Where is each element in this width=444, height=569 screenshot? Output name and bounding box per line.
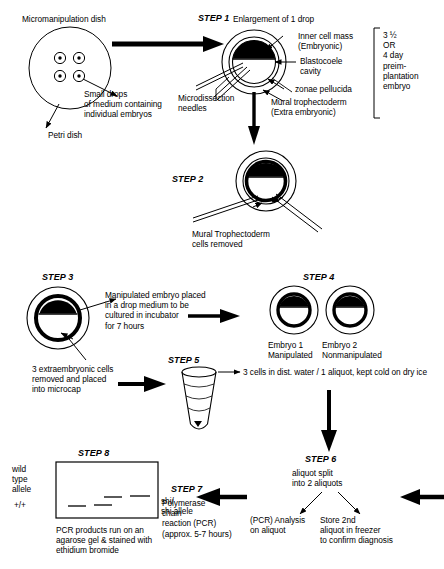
- label-blastocoele-cavity: Blastocoele cavity: [300, 56, 342, 76]
- arrow-to-microcap: [118, 376, 166, 392]
- label-store-second-aliquot: Store 2nd aliquot in freezer to confirm …: [320, 515, 393, 546]
- label-mural-cells-removed: Mural Trophectoderm cells removed: [192, 229, 270, 249]
- arrow-step6-to-step7: [400, 489, 444, 505]
- embryo2-step4: [326, 286, 374, 334]
- step-4-label: STEP 4: [303, 272, 334, 282]
- label-shi-allele: shi/ shi allele: [161, 496, 193, 516]
- step-6-label: STEP 6: [305, 454, 336, 464]
- microcap-tube: [182, 367, 240, 429]
- embryo-age-bracket: [374, 28, 380, 118]
- label-petri-dish: Petri dish: [48, 130, 82, 140]
- label-mural-trophectoderm: Mural trophectoderm (Extra embryonic): [271, 97, 347, 117]
- label-gel-caption: PCR products run on an agarose gel & sta…: [56, 525, 152, 556]
- label-extraembryonic-removed: 3 extraembryonic cells removed and place…: [32, 364, 113, 395]
- label-wild-type-allele: wild type allele: [12, 464, 31, 495]
- step-1-label: STEP 1: [198, 13, 229, 23]
- step-2-label: STEP 2: [172, 174, 203, 184]
- label-embryo-1: Embryo 1 Manipulated: [268, 340, 313, 360]
- step-7-label: STEP 7: [171, 484, 202, 494]
- arrow-step1: [112, 36, 224, 52]
- embryo1-step4: [270, 286, 318, 334]
- label-enlargement-of-drop: Enlargement of 1 drop: [233, 14, 314, 24]
- label-embryo-2: Embryo 2 Nonmanipulated: [322, 340, 382, 360]
- arrow-to-step6: [321, 390, 337, 452]
- label-embryo-age: 3 ½ OR 4 day preim- plantation embryo: [383, 30, 418, 91]
- label-small-drops: Small drops of medium containing individ…: [84, 89, 162, 120]
- arrow-step1-to-step2: [248, 92, 260, 145]
- label-zonae-pellucida: zonae pellucida: [295, 84, 352, 94]
- label-microdissection-needles: Microdissection needles: [178, 93, 234, 113]
- label-micromanipulation-dish: Micromanipulation dish: [22, 14, 106, 24]
- blastocyst-step3: [27, 287, 116, 360]
- label-three-cells-aliquot: 3 cells in dist. water / 1 aliquot, kept…: [243, 367, 427, 377]
- label-aliquot-split: aliquot split into 2 aliquots: [292, 468, 342, 488]
- step-3-label: STEP 3: [42, 272, 73, 282]
- step-5-label: STEP 5: [168, 355, 199, 365]
- label-plus-plus: +/+: [14, 500, 26, 510]
- step-8-label: STEP 8: [78, 448, 109, 458]
- label-pcr-analysis: (PCR) Analysis on aliquot: [250, 515, 305, 535]
- aliquot-split-arrows: [300, 492, 360, 514]
- diagram-artwork: [0, 0, 444, 569]
- label-manipulated-embryo: Manipulated embryo placed in a drop medi…: [105, 290, 206, 331]
- agarose-gel: [56, 462, 158, 518]
- label-inner-cell-mass: Inner cell mass (Embryonic): [298, 31, 353, 51]
- blastocyst-step2: [193, 151, 322, 232]
